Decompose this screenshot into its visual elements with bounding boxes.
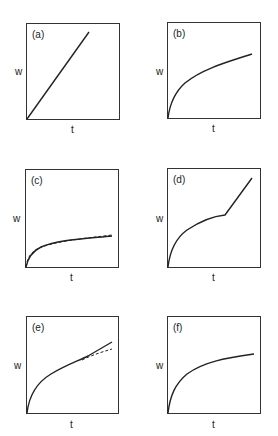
x-axis-label: t: [70, 419, 73, 430]
curve-linear: [26, 23, 120, 120]
y-axis-label: w: [156, 66, 163, 77]
panel-a: (a): [26, 23, 120, 120]
curve-breakaway: [167, 168, 261, 268]
panel-f: (f): [167, 316, 261, 414]
y-axis-label: w: [14, 360, 21, 371]
x-axis-label: t: [212, 272, 215, 283]
curve-parabolic: [167, 22, 261, 119]
curve-logarithmic: [25, 169, 119, 268]
x-axis-label: t: [70, 272, 73, 283]
curve-cubic: [167, 316, 261, 414]
panel-d: (d): [167, 168, 261, 268]
x-axis-label: t: [212, 123, 215, 134]
y-axis-label: w: [13, 213, 20, 224]
panel-c: (c): [25, 169, 119, 268]
y-axis-label: w: [156, 360, 163, 371]
panel-b: (b): [167, 22, 261, 119]
y-axis-label: w: [15, 66, 22, 77]
y-axis-label: w: [156, 213, 163, 224]
x-axis-label: t: [71, 124, 74, 135]
panel-e: (e): [26, 316, 119, 414]
x-axis-label: t: [212, 419, 215, 430]
curve-paralinear: [26, 316, 119, 414]
